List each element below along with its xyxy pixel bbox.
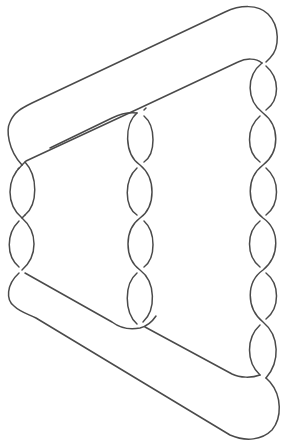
middle-right-bottom-band bbox=[145, 327, 260, 377]
knot-diagram bbox=[0, 0, 288, 446]
middle-column-strand-b bbox=[127, 116, 153, 324]
knot-diagram-svg bbox=[0, 0, 288, 446]
middle-column-strand-a bbox=[128, 113, 153, 322]
inner-bottom-band bbox=[25, 273, 156, 329]
outer-top-band bbox=[8, 7, 277, 165]
right-column-strand-a bbox=[250, 63, 276, 378]
left-bottom-loop bbox=[9, 273, 280, 439]
middle-top-arch-right bbox=[144, 108, 146, 110]
left-column-strand-c bbox=[22, 215, 25, 218]
inner-top-band bbox=[22, 59, 262, 165]
